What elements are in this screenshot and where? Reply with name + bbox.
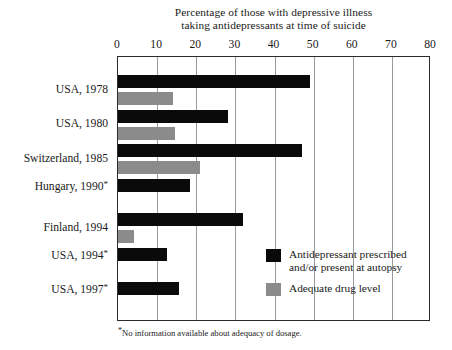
legend-swatch-gray bbox=[266, 283, 281, 296]
bar-dark-3 bbox=[118, 179, 190, 192]
bar-gray-2 bbox=[118, 161, 200, 174]
category-footnote-marker: * bbox=[104, 282, 109, 292]
category-label-6: USA, 1997* bbox=[51, 281, 108, 296]
category-label-2: Switzerland, 1985 bbox=[24, 152, 108, 165]
footnote: *No information available about adequacy… bbox=[118, 325, 302, 339]
legend-item-0: Antidepressant prescribedand/or present … bbox=[266, 248, 446, 273]
bar-dark-0 bbox=[118, 75, 310, 88]
legend-label-1: Adequate drug level bbox=[289, 282, 381, 295]
bar-dark-6 bbox=[118, 282, 179, 295]
chart-title: Percentage of those with depressive illn… bbox=[117, 6, 430, 33]
bar-gray-0 bbox=[118, 92, 173, 105]
x-tick-label-40: 40 bbox=[268, 38, 280, 52]
x-tick-label-30: 30 bbox=[229, 38, 241, 52]
x-axis-tick-labels: 01020304050607080 bbox=[117, 38, 430, 54]
legend-item-1: Adequate drug level bbox=[266, 282, 446, 296]
x-tick-label-10: 10 bbox=[150, 38, 162, 52]
category-label-text: USA, 1994 bbox=[51, 248, 103, 261]
bar-dark-1 bbox=[118, 110, 228, 123]
x-tick-label-50: 50 bbox=[307, 38, 319, 52]
x-tick-label-0: 0 bbox=[114, 38, 120, 52]
legend-swatch-dark bbox=[266, 249, 281, 262]
x-tick-label-80: 80 bbox=[424, 38, 436, 52]
legend-label-line: Antidepressant prescribed bbox=[289, 248, 407, 261]
x-tick-label-60: 60 bbox=[346, 38, 358, 52]
plot-area: Antidepressant prescribedand/or present … bbox=[117, 56, 430, 321]
category-label-text: USA, 1997 bbox=[51, 283, 103, 296]
category-label-text: Hungary, 1990 bbox=[35, 179, 104, 192]
category-label-4: Finland, 1994 bbox=[44, 221, 108, 234]
footnote-text: No information available about adequacy … bbox=[122, 328, 302, 338]
legend-label-0: Antidepressant prescribedand/or present … bbox=[289, 248, 407, 273]
category-label-1: USA, 1980 bbox=[56, 117, 108, 130]
bar-gray-1 bbox=[118, 127, 175, 140]
legend-label-line: and/or present at autopsy bbox=[289, 261, 407, 274]
category-label-0: USA, 1978 bbox=[56, 83, 108, 96]
chart-legend: Antidepressant prescribedand/or present … bbox=[266, 248, 446, 305]
bar-dark-2 bbox=[118, 144, 302, 157]
x-tick-label-70: 70 bbox=[385, 38, 397, 52]
y-axis-category-labels: USA, 1978USA, 1980Switzerland, 1985Hunga… bbox=[0, 56, 112, 321]
chart-figure: Percentage of those with depressive illn… bbox=[0, 0, 452, 350]
x-tick-label-20: 20 bbox=[189, 38, 201, 52]
bar-gray-4 bbox=[118, 230, 134, 243]
category-label-5: USA, 1994* bbox=[51, 247, 108, 262]
bar-dark-4 bbox=[118, 213, 243, 226]
chart-title-line-1: Percentage of those with depressive illn… bbox=[117, 6, 430, 19]
chart-title-line-2: taking antidepressants at time of suicid… bbox=[117, 19, 430, 32]
category-label-3: Hungary, 1990* bbox=[35, 178, 108, 193]
legend-label-line: Adequate drug level bbox=[289, 282, 381, 295]
category-footnote-marker: * bbox=[104, 179, 109, 189]
bar-dark-5 bbox=[118, 248, 167, 261]
category-footnote-marker: * bbox=[104, 248, 109, 258]
